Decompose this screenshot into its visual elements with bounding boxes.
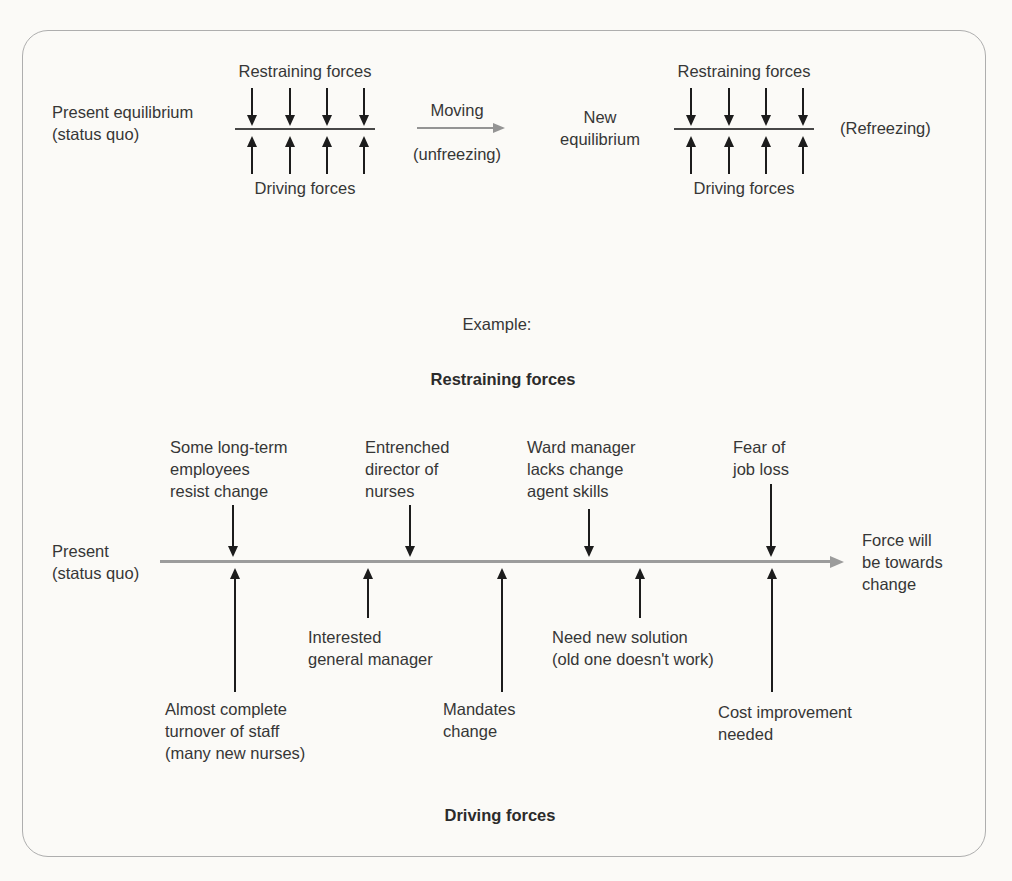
down-arrow-icon	[765, 88, 767, 115]
restraining-forces-heading: Restraining forces	[408, 368, 598, 390]
up-arrow-icon	[802, 147, 804, 174]
refreezing-label: (Refreezing)	[840, 117, 931, 139]
driving-force-label: Need new solution (old one doesn't work)	[552, 626, 714, 670]
down-arrow-icon	[409, 505, 411, 546]
up-arrow-icon	[690, 147, 692, 174]
down-arrow-icon	[690, 88, 692, 115]
right-cluster-restraining-label: Restraining forces	[654, 60, 834, 82]
up-arrow-icon	[501, 579, 503, 692]
left-cluster-driving-label: Driving forces	[215, 177, 395, 199]
up-arrow-icon	[728, 147, 730, 174]
restraining-force-label: Entrenched director of nurses	[365, 436, 449, 502]
restraining-force-label: Some long-term employees resist change	[170, 436, 287, 502]
up-arrow-icon	[367, 579, 369, 618]
up-arrow-icon	[289, 147, 291, 174]
down-arrow-icon	[588, 509, 590, 546]
up-arrow-icon	[363, 147, 365, 174]
up-arrow-icon	[234, 579, 236, 692]
driving-force-label: Almost complete turnover of staff (many …	[165, 698, 305, 764]
driving-forces-heading: Driving forces	[405, 804, 595, 826]
down-arrow-icon	[802, 88, 804, 115]
driving-force-label: Interested general manager	[308, 626, 433, 670]
force-towards-change-label: Force will be towards change	[862, 529, 943, 595]
right-arrow-icon	[417, 127, 493, 129]
unfreezing-label: (unfreezing)	[392, 143, 522, 165]
down-arrow-icon	[728, 88, 730, 115]
moving-label: Moving	[397, 99, 517, 121]
up-arrow-icon	[639, 579, 641, 618]
equilibrium-line	[235, 128, 375, 130]
right-cluster-driving-label: Driving forces	[654, 177, 834, 199]
present-equilibrium-label: Present equilibrium (status quo)	[52, 101, 193, 145]
down-arrow-icon	[289, 88, 291, 115]
up-arrow-icon	[251, 147, 253, 174]
up-arrow-icon	[765, 147, 767, 174]
down-arrow-icon	[232, 505, 234, 546]
driving-force-label: Mandates change	[443, 698, 515, 742]
equilibrium-line	[674, 128, 814, 130]
up-arrow-icon	[326, 147, 328, 174]
new-equilibrium-label: New equilibrium	[540, 106, 660, 150]
down-arrow-icon	[363, 88, 365, 115]
down-arrow-icon	[770, 484, 772, 546]
down-arrow-icon	[326, 88, 328, 115]
lewin-force-field-figure: Present equilibrium (status quo) Restrai…	[0, 0, 1012, 881]
up-arrow-icon	[771, 579, 773, 692]
left-cluster-restraining-label: Restraining forces	[215, 60, 395, 82]
example-heading: Example:	[427, 313, 567, 335]
present-status-quo-label: Present (status quo)	[52, 540, 139, 584]
restraining-force-label: Ward manager lacks change agent skills	[527, 436, 636, 502]
axis-arrow	[160, 560, 830, 563]
restraining-force-label: Fear of job loss	[733, 436, 789, 480]
driving-force-label: Cost improvement needed	[718, 701, 852, 745]
down-arrow-icon	[251, 88, 253, 115]
